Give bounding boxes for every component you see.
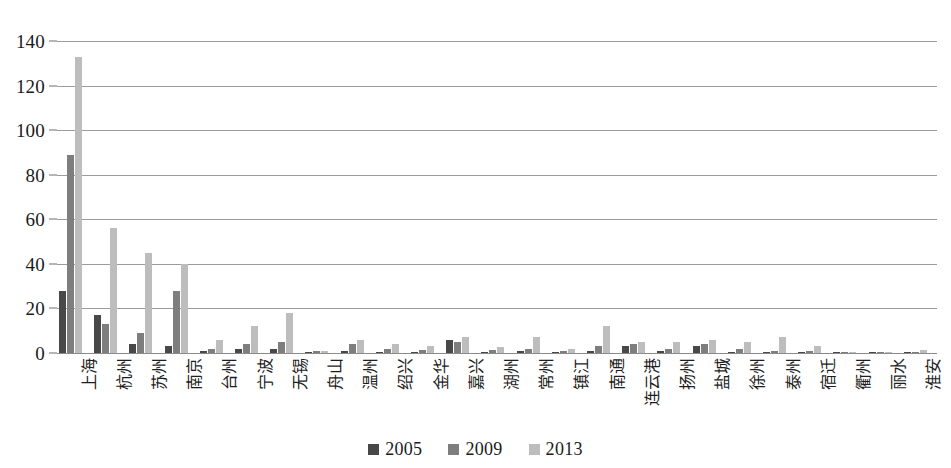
bar: [497, 347, 504, 353]
bar: [75, 57, 82, 353]
legend-item[interactable]: 2013: [529, 440, 583, 458]
x-axis-tick-label: 宁波: [258, 358, 274, 390]
bar: [59, 291, 66, 353]
bar-chart: 020406080100120140 上海杭州苏州南京台州宁波无锡舟山温州绍兴金…: [0, 0, 951, 468]
bar: [349, 344, 356, 353]
bar: [305, 352, 312, 353]
x-axis-tick-label: 苏州: [152, 358, 168, 390]
x-axis-tick-label: 金华: [434, 358, 450, 390]
x-axis-tick-label: 连云港: [645, 358, 661, 406]
x-axis-tick-label: 丽水: [891, 358, 907, 390]
bar: [568, 349, 575, 353]
x-axis-tick-label: 湖州: [504, 358, 520, 390]
legend-item[interactable]: 2009: [448, 440, 502, 458]
y-axis-tick-label: 80: [26, 165, 45, 184]
bar: [736, 349, 743, 353]
bar: [525, 349, 532, 353]
bar: [286, 313, 293, 353]
bar: [709, 340, 716, 353]
bar: [489, 350, 496, 353]
bar-group: [444, 41, 479, 353]
y-axis-tick-label: 40: [26, 254, 45, 273]
legend-item[interactable]: 2005: [368, 440, 422, 458]
bar: [552, 352, 559, 353]
bar: [657, 351, 664, 353]
bar: [912, 352, 919, 353]
bar: [94, 315, 101, 353]
bar: [877, 352, 884, 353]
x-axis-tick-label: 上海: [82, 358, 98, 390]
bar: [798, 352, 805, 353]
bar: [779, 337, 786, 353]
bar: [165, 346, 172, 353]
y-axis-tick-label: 0: [35, 344, 45, 363]
bar: [920, 350, 927, 353]
y-axis-tick-label: 140: [16, 32, 45, 51]
y-axis: 020406080100120140: [0, 41, 57, 354]
legend-label: 2009: [465, 440, 502, 458]
y-axis-tick-mark: [49, 308, 57, 309]
bar-group: [620, 41, 655, 353]
bar: [454, 342, 461, 353]
x-axis-tick-label: 温州: [363, 358, 379, 390]
y-axis-tick-mark: [49, 41, 57, 42]
bar-group: [374, 41, 409, 353]
x-axis-tick-label: 徐州: [750, 358, 766, 390]
y-axis-tick-mark: [49, 130, 57, 131]
bar: [321, 351, 328, 353]
bar-group: [585, 41, 620, 353]
bar: [833, 352, 840, 353]
bar: [208, 349, 215, 353]
x-axis-tick-label: 杭州: [117, 358, 133, 390]
x-axis-tick-label: 衢州: [856, 358, 872, 390]
bar-group: [339, 41, 374, 353]
bar: [560, 351, 567, 353]
bar: [587, 351, 594, 353]
legend-swatch-icon: [368, 444, 379, 455]
x-axis-tick-label: 镇江: [574, 358, 590, 390]
bar: [841, 352, 848, 353]
bar: [517, 351, 524, 353]
bar-group: [515, 41, 550, 353]
y-axis-tick-mark: [49, 263, 57, 264]
bar-group: [761, 41, 796, 353]
bar: [771, 351, 778, 353]
y-axis-tick-mark: [49, 353, 57, 354]
bar-group: [92, 41, 127, 353]
bar-group: [867, 41, 902, 353]
bar: [376, 352, 383, 353]
bar: [446, 340, 453, 353]
legend-label: 2005: [385, 440, 422, 458]
x-axis-tick-label: 绍兴: [398, 358, 414, 390]
bar: [885, 352, 892, 353]
y-axis-tick-label: 100: [16, 121, 45, 140]
bar: [357, 340, 364, 353]
bar: [595, 346, 602, 353]
bars-layer: [57, 41, 937, 354]
bar-group: [233, 41, 268, 353]
bar: [411, 352, 418, 353]
bar-group: [550, 41, 585, 353]
bar: [419, 350, 426, 353]
bar: [173, 291, 180, 353]
plot-area: [57, 41, 937, 354]
bar: [392, 344, 399, 353]
bar: [638, 342, 645, 353]
bar: [481, 352, 488, 353]
y-axis-tick-label: 120: [16, 76, 45, 95]
x-axis-tick-label: 泰州: [786, 358, 802, 390]
x-axis-tick-label: 盐城: [715, 358, 731, 390]
bar-group: [479, 41, 514, 353]
bar-group: [163, 41, 198, 353]
bar: [622, 346, 629, 353]
bar: [384, 349, 391, 353]
bar: [665, 349, 672, 353]
bar: [67, 155, 74, 353]
bar: [129, 344, 136, 353]
bar: [814, 346, 821, 353]
bar: [673, 342, 680, 353]
bar: [110, 228, 117, 353]
x-axis-tick-label: 南通: [610, 358, 626, 390]
bar-group: [303, 41, 338, 353]
x-axis-labels: 上海杭州苏州南京台州宁波无锡舟山温州绍兴金华嘉兴湖州常州镇江南通连云港扬州盐城徐…: [57, 356, 937, 428]
